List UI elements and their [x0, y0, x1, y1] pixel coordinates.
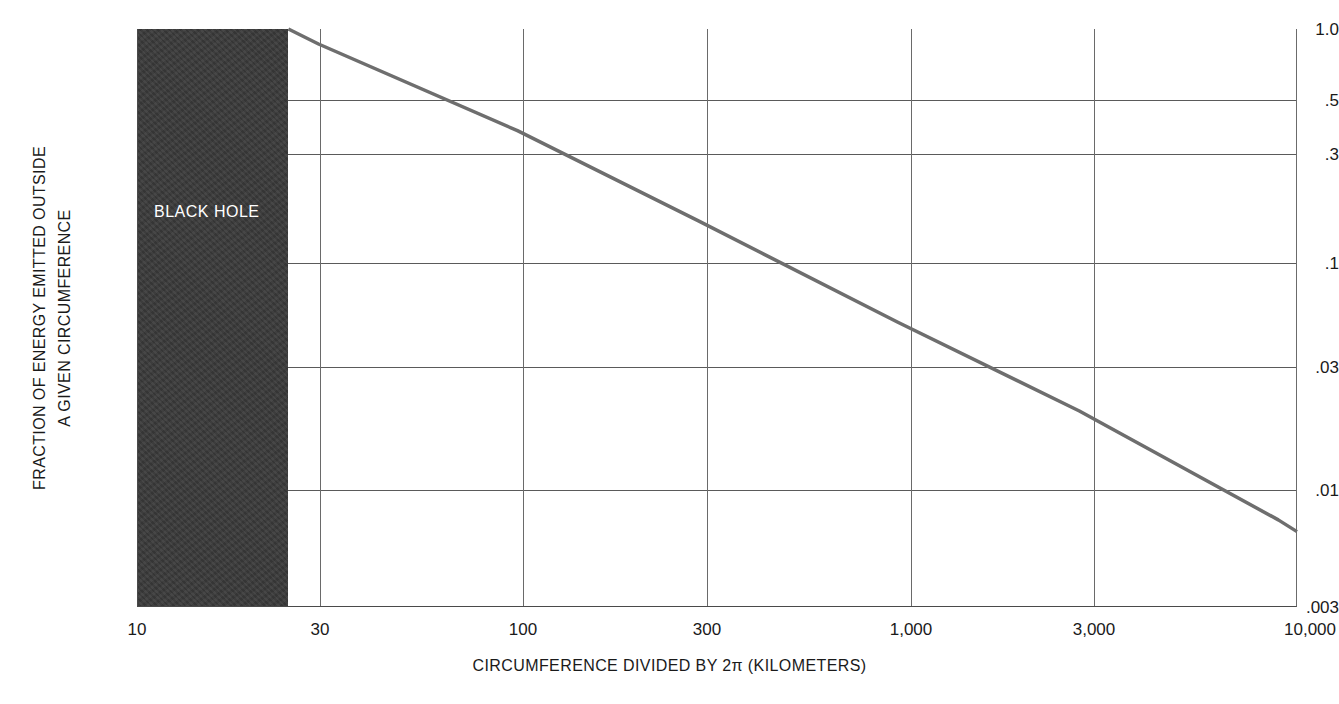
- xtick-label-3: 100: [493, 621, 553, 638]
- xtick-label-2: 30: [290, 621, 350, 638]
- xtick-label-7: 10,000: [1250, 621, 1336, 638]
- xtick-label-1: 10: [107, 621, 167, 638]
- data-series-line: [288, 29, 1297, 532]
- data-line-layer: [137, 29, 1297, 607]
- xtick-label-4: 300: [677, 621, 737, 638]
- y-axis-title: FRACTION OF ENERGY EMITTED OUTSIDE A GIV…: [28, 29, 84, 607]
- xtick-label-5: 1,000: [871, 621, 951, 638]
- x-axis-title: CIRCUMFERENCE DIVIDED BY 2π (KILOMETERS): [0, 657, 1339, 675]
- y-axis-title-line2: A GIVEN CIRCUMFERENCE: [53, 29, 78, 607]
- xtick-label-6: 3,000: [1054, 621, 1134, 638]
- plot-area: BLACK HOLE: [137, 29, 1297, 607]
- chart-figure: 1.0 .5 .3 .1 .03 .01 .003 10 30 100 300 …: [0, 0, 1339, 704]
- y-axis-title-line1: FRACTION OF ENERGY EMITTED OUTSIDE: [31, 146, 48, 490]
